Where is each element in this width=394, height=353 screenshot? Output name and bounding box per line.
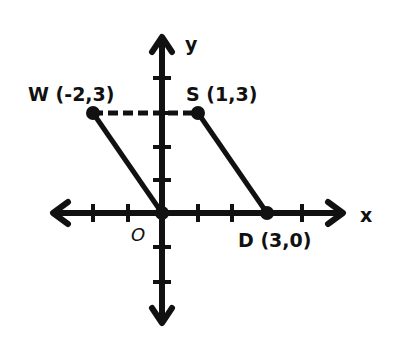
x-axis xyxy=(53,202,343,224)
segment-sd xyxy=(198,113,267,213)
point-d xyxy=(260,206,274,220)
label-origin: O xyxy=(131,224,145,245)
label-w: W (-2,3) xyxy=(28,83,114,105)
y-axis-label: y xyxy=(185,33,198,55)
y-axis xyxy=(152,37,172,323)
point-o xyxy=(155,206,169,220)
segment-wo xyxy=(93,113,162,213)
point-w xyxy=(86,106,100,120)
coordinate-plane: W (-2,3) S (1,3) D (3,0) O x y xyxy=(0,0,394,353)
x-axis-label: x xyxy=(360,204,372,226)
label-d: D (3,0) xyxy=(238,229,311,251)
label-s: S (1,3) xyxy=(186,83,257,105)
point-s xyxy=(191,106,205,120)
